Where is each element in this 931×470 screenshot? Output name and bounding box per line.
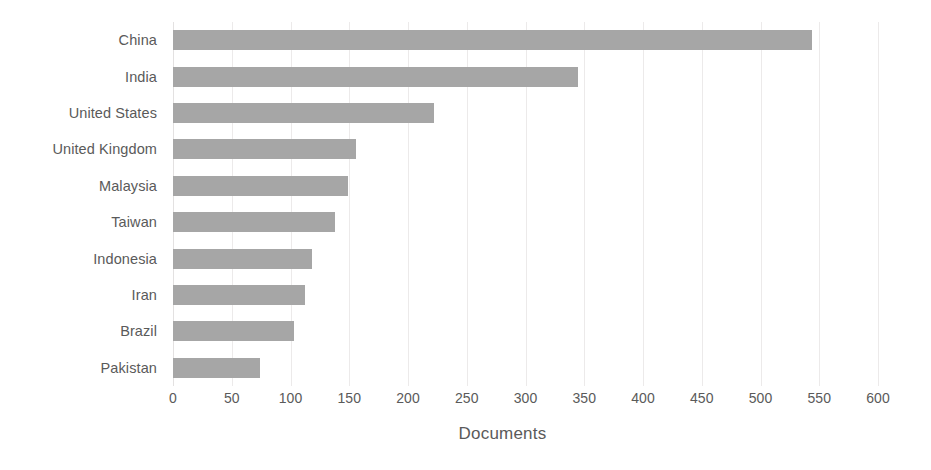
bar-indonesia[interactable]	[173, 249, 312, 269]
bar-taiwan[interactable]	[173, 212, 335, 232]
bar-series-documents	[173, 22, 878, 386]
x-axis-tick-labels: 050100150200250300350400450500550600	[173, 390, 878, 412]
bar-row	[173, 277, 878, 313]
bar-row	[173, 58, 878, 94]
bar-brazil[interactable]	[173, 321, 294, 341]
x-tick-100: 100	[279, 390, 302, 406]
bar-row	[173, 240, 878, 276]
x-tick-550: 550	[808, 390, 831, 406]
x-axis-title: Documents	[0, 424, 931, 444]
y-axis-label-china: China	[119, 22, 157, 58]
gridline-600	[878, 22, 879, 386]
bar-row	[173, 131, 878, 167]
y-axis-label-iran: Iran	[132, 277, 157, 313]
plot-area	[173, 22, 878, 386]
bar-malaysia[interactable]	[173, 176, 348, 196]
bar-united-kingdom[interactable]	[173, 139, 356, 159]
bar-row	[173, 350, 878, 386]
x-tick-0: 0	[169, 390, 177, 406]
bar-row	[173, 313, 878, 349]
x-tick-300: 300	[514, 390, 537, 406]
bar-row	[173, 22, 878, 58]
y-axis-label-india: India	[125, 58, 157, 94]
bar-iran[interactable]	[173, 285, 305, 305]
y-axis-label-malaysia: Malaysia	[99, 168, 157, 204]
y-axis-category-labels: ChinaIndiaUnited StatesUnited KingdomMal…	[0, 22, 165, 386]
x-tick-50: 50	[224, 390, 240, 406]
x-axis-title-text: Documents	[459, 424, 547, 444]
x-tick-150: 150	[338, 390, 361, 406]
x-tick-350: 350	[573, 390, 596, 406]
y-axis-label-united-kingdom: United Kingdom	[52, 131, 157, 167]
x-tick-600: 600	[866, 390, 889, 406]
x-tick-400: 400	[631, 390, 654, 406]
x-tick-500: 500	[749, 390, 772, 406]
bar-row	[173, 168, 878, 204]
x-tick-200: 200	[396, 390, 419, 406]
y-axis-label-brazil: Brazil	[120, 313, 157, 349]
y-axis-label-united-states: United States	[69, 95, 157, 131]
y-axis-label-taiwan: Taiwan	[111, 204, 157, 240]
x-tick-250: 250	[455, 390, 478, 406]
bar-china[interactable]	[173, 30, 812, 50]
y-axis-label-indonesia: Indonesia	[93, 240, 157, 276]
x-tick-450: 450	[690, 390, 713, 406]
bar-pakistan[interactable]	[173, 358, 260, 378]
bar-row	[173, 95, 878, 131]
y-axis-label-pakistan: Pakistan	[101, 350, 157, 386]
bar-row	[173, 204, 878, 240]
bar-chart: ChinaIndiaUnited StatesUnited KingdomMal…	[0, 0, 931, 470]
bar-united-states[interactable]	[173, 103, 434, 123]
bar-india[interactable]	[173, 67, 578, 87]
